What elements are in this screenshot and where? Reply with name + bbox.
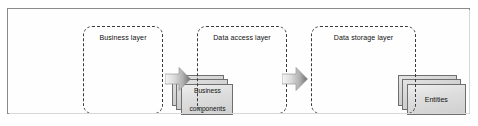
arrow-business-to-data-access-icon — [165, 67, 191, 91]
diagram-frame: Business layer Businesscomponents — [7, 8, 470, 114]
layer-data-storage: Data storage layer RDBMS Directoryserver — [311, 26, 416, 114]
layer-data-storage-title: Data storage layer — [315, 33, 412, 42]
layer-data-access-title: Data access layer — [201, 33, 284, 42]
layer-business-title: Business layer — [86, 33, 159, 42]
entities-label: Entities — [425, 95, 448, 104]
arrow-data-access-to-data-storage-icon — [282, 67, 308, 91]
layer-business: Business layer Businesscomponents — [83, 26, 163, 114]
architecture-diagram: Business layer Businesscomponents — [0, 0, 478, 126]
layer-data-access: Data access layer Entities — [197, 26, 287, 114]
